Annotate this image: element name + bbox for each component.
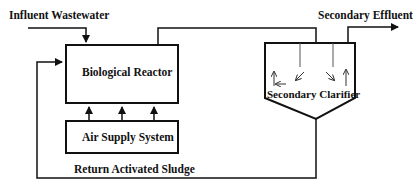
- air-supply-label: Air Supply System: [82, 132, 174, 144]
- return-sludge-label: Return Activated Sludge: [74, 164, 195, 176]
- effluent-flow-arrow: [348, 27, 398, 43]
- air-flow-arrows: [89, 107, 154, 121]
- secondary-clarifier-shape: [265, 43, 355, 119]
- influent-label: Influent Wastewater: [9, 10, 109, 22]
- clarifier-label: Secondary Clarifier: [267, 89, 360, 100]
- influent-flow-arrow: [28, 28, 86, 42]
- effluent-label: Secondary Effluent: [318, 10, 413, 22]
- reactor-label: Biological Reactor: [82, 67, 172, 79]
